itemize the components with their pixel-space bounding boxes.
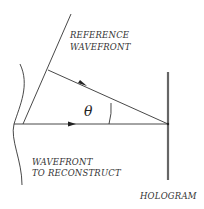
reference-label-line2: WAVEFRONT	[70, 42, 132, 52]
reference-ray	[48, 70, 168, 124]
object-wavefront-curve	[13, 64, 24, 185]
object-ray-arrow-icon	[68, 122, 76, 127]
object-label-line2: TO RECONSTRUCT	[32, 168, 122, 178]
hologram-label: HOLOGRAM	[139, 191, 197, 201]
angle-arc	[109, 103, 111, 124]
angle-theta-label: θ	[84, 103, 93, 119]
intersection-point	[167, 123, 169, 125]
object-label-line1: WAVEFRONT	[32, 157, 94, 167]
hologram-recording-diagram: θ REFERENCE WAVEFRONT WAVEFRONT TO RECON…	[0, 0, 204, 209]
reference-wavefront-line	[23, 14, 71, 124]
reference-label-line1: REFERENCE	[69, 30, 130, 40]
